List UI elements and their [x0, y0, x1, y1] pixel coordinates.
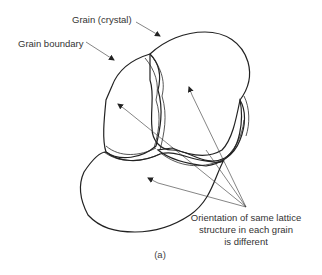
figure-caption: (a) — [154, 249, 166, 260]
label-orientation-2: structure in each grain — [199, 224, 293, 235]
grain-leader — [136, 22, 160, 36]
label-orientation-1: Orientation of same lattice — [191, 212, 301, 223]
boundary-leader — [86, 42, 114, 60]
orientation-arrows — [118, 87, 192, 183]
label-grain: Grain (crystal) — [72, 14, 132, 25]
grain-upper-left — [104, 54, 165, 161]
label-orientation-3: is different — [224, 236, 268, 247]
polycrystal-diagram: Grain (crystal) Grain boundary Orientati… — [0, 0, 322, 275]
label-grain-boundary: Grain boundary — [18, 38, 84, 49]
leader-lines — [126, 95, 246, 207]
grain-right-small — [158, 96, 249, 166]
